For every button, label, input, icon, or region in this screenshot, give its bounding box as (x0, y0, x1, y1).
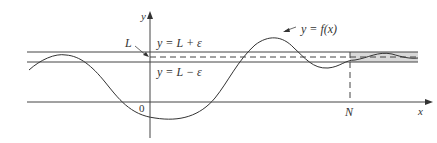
N-label: N (345, 106, 353, 118)
fx-pointer-arrowhead-icon (283, 28, 290, 32)
curve-label: y = f(x) (301, 23, 337, 35)
x-axis-label: x (418, 106, 423, 117)
x-axis-arrow-icon (425, 99, 433, 105)
lower-bound-label: y = L − ε (157, 66, 202, 78)
L-pointer-arrowhead-icon (143, 52, 149, 57)
origin-label: 0 (139, 103, 145, 114)
function-curve (29, 38, 418, 119)
limit-diagram (0, 0, 437, 143)
L-label: L (125, 37, 132, 49)
upper-bound-label: y = L + ε (157, 37, 202, 49)
y-axis-arrow-icon (147, 11, 153, 19)
y-axis-label: y (141, 11, 146, 22)
